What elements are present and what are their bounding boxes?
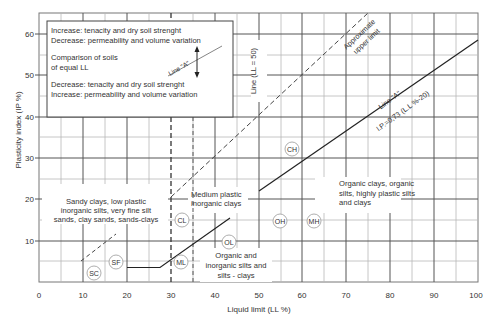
legend-increase-tenacity: Increase: tenacity and dry soil strenght bbox=[51, 26, 182, 35]
legend-equal-ll: of equal LL bbox=[51, 63, 89, 72]
symbol-cl: CL bbox=[175, 213, 189, 227]
svg-text:70: 70 bbox=[342, 291, 351, 300]
svg-text:Medium plastic: Medium plastic bbox=[191, 190, 242, 199]
legend-comparison: Comparison of soils bbox=[51, 53, 118, 62]
y-ticks bbox=[35, 34, 39, 241]
svg-text:CH: CH bbox=[287, 146, 297, 153]
legend-decrease-permeability: Decrease: permeability and volume variat… bbox=[51, 36, 201, 45]
zone-sandy-clays: Sandy clays, low plastic inorganic silts… bbox=[54, 197, 159, 224]
svg-text:10: 10 bbox=[25, 237, 34, 246]
svg-text:30: 30 bbox=[167, 291, 176, 300]
x-tick-labels: 0 10 20 30 40 50 60 70 80 90 100 bbox=[37, 291, 483, 300]
svg-text:silts - clays: silts - clays bbox=[217, 271, 254, 280]
symbol-ml: ML bbox=[174, 255, 188, 269]
svg-text:SF: SF bbox=[112, 259, 121, 266]
y-axis-label: Plasticity index (IP %) bbox=[14, 91, 23, 169]
symbol-sf: SF bbox=[109, 255, 123, 269]
svg-text:30: 30 bbox=[25, 154, 34, 163]
svg-text:40: 40 bbox=[211, 291, 220, 300]
x-axis-label: Liquid limit (LL %) bbox=[227, 305, 291, 314]
svg-text:40: 40 bbox=[25, 113, 34, 122]
svg-text:inorganic clays: inorganic clays bbox=[191, 199, 241, 208]
legend-decrease-tenacity: Decrease: tenacity and dry soil strenght bbox=[51, 80, 185, 89]
svg-text:10: 10 bbox=[79, 291, 88, 300]
svg-text:MH: MH bbox=[309, 218, 320, 225]
svg-text:silts, highly plastic silts: silts, highly plastic silts bbox=[339, 189, 415, 198]
svg-text:90: 90 bbox=[430, 291, 439, 300]
svg-text:50: 50 bbox=[25, 71, 34, 80]
ll50-label: Line (LL = 50) bbox=[249, 47, 258, 94]
svg-text:sands, clay sands, sands-clays: sands, clay sands, sands-clays bbox=[54, 215, 159, 224]
symbol-mh: MH bbox=[307, 214, 321, 228]
svg-text:100: 100 bbox=[469, 291, 483, 300]
symbol-sc: SC bbox=[87, 266, 101, 280]
svg-text:0: 0 bbox=[37, 291, 42, 300]
svg-text:Organic and: Organic and bbox=[215, 251, 256, 260]
symbol-ch: CH bbox=[285, 142, 299, 156]
svg-text:ML: ML bbox=[176, 259, 186, 266]
svg-text:inorganic silts, very fine sil: inorganic silts, very fine silt bbox=[61, 206, 152, 215]
legend-increase-permeability: Increase: permeability and volume variat… bbox=[51, 90, 197, 99]
svg-text:SC: SC bbox=[89, 270, 99, 277]
symbol-ol: OL bbox=[222, 235, 236, 249]
svg-text:50: 50 bbox=[255, 291, 264, 300]
svg-text:CL: CL bbox=[178, 217, 187, 224]
svg-text:20: 20 bbox=[123, 291, 132, 300]
y-tick-labels: 10 20 30 40 50 60 bbox=[25, 30, 34, 246]
svg-text:20: 20 bbox=[25, 195, 34, 204]
zone-medium-plastic: Medium plastic inorganic clays bbox=[191, 190, 242, 208]
svg-text:OH: OH bbox=[275, 218, 286, 225]
svg-text:80: 80 bbox=[386, 291, 395, 300]
svg-text:OL: OL bbox=[224, 239, 233, 246]
svg-text:Sandy clays, low plastic: Sandy clays, low plastic bbox=[66, 197, 146, 206]
svg-text:Organic clays, organic: Organic clays, organic bbox=[339, 179, 414, 188]
symbol-oh: OH bbox=[273, 214, 287, 228]
plasticity-chart: Increase: tenacity and dry soil strenght… bbox=[0, 0, 499, 321]
svg-text:and clays: and clays bbox=[339, 198, 371, 207]
svg-text:60: 60 bbox=[298, 291, 307, 300]
svg-text:60: 60 bbox=[25, 30, 34, 39]
svg-text:inorganic silts and: inorganic silts and bbox=[206, 261, 267, 270]
